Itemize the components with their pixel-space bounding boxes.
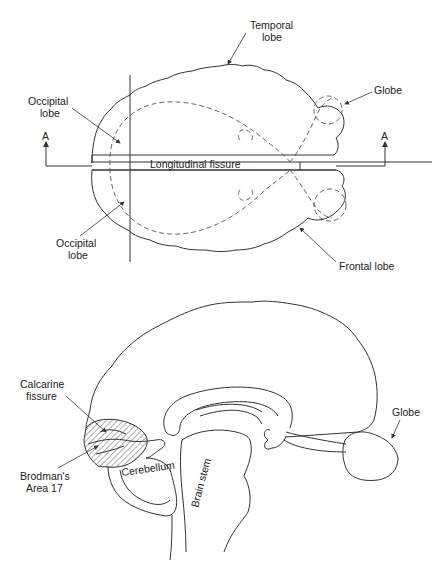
globe-sagittal-pointer: [392, 420, 400, 438]
label-section-a-left: A: [42, 130, 49, 142]
dashed-lgn-upper: [238, 130, 252, 142]
section-a-left-marker: [46, 142, 92, 166]
dashed-optic-lower: [290, 170, 332, 218]
globe-top-pointer: [345, 92, 372, 104]
brain-stem-top: [182, 430, 250, 440]
occipital-lower-pointer: [80, 202, 124, 236]
label-brodmans-line2: Area 17: [26, 482, 63, 494]
label-globe-sagittal: Globe: [392, 406, 420, 418]
brain-anatomy-diagram: Temporal lobe Globe Occipital lobe A A L…: [0, 0, 440, 576]
sagittal-view: Calcarine fissure Brodman's Area 17 Cere…: [20, 301, 420, 560]
brodmans-area-17: [84, 419, 147, 467]
label-section-a-right: A: [381, 130, 388, 142]
label-longitudinal-fissure: Longitudinal fissure: [150, 158, 241, 170]
dashed-optic-upper: [290, 98, 332, 162]
label-occipital-lower-line1: Occipital: [56, 237, 96, 249]
fourth-ventricle: [146, 440, 165, 458]
label-occipital-upper-line2: lobe: [40, 107, 60, 119]
occipital-upper-pointer: [72, 108, 120, 143]
temporal-lobe-pointer: [228, 33, 246, 64]
dashed-lgn-lower: [238, 188, 252, 200]
label-calcarine-line2: fissure: [26, 390, 57, 402]
dashed-lower-loop: [110, 168, 290, 234]
label-globe-top: Globe: [374, 84, 402, 96]
dashed-upper-loop: [110, 102, 290, 165]
fornix-lines: [196, 404, 262, 424]
label-frontal-lobe: Frontal lobe: [339, 260, 395, 272]
label-occipital-upper-line1: Occipital: [28, 95, 68, 107]
globe-sagittal: [343, 432, 398, 481]
label-calcarine-line1: Calcarine: [20, 378, 65, 390]
label-brain-stem: Brain stem: [188, 457, 213, 509]
label-brodmans-line1: Brodman's: [20, 470, 70, 482]
top-view: Temporal lobe Globe Occipital lobe A A L…: [28, 19, 432, 272]
frontal-lobe-pointer: [300, 228, 336, 262]
corpus-callosum: [164, 387, 292, 435]
optic-nerve-lower: [284, 440, 346, 452]
hypothalamus-bumps: [264, 430, 286, 449]
label-temporal-lobe-line2: lobe: [262, 31, 282, 43]
spinal-cord: [170, 515, 172, 560]
cerebrum-outline: [90, 301, 377, 437]
label-temporal-lobe-line1: Temporal: [250, 19, 293, 31]
label-occipital-lower-line2: lobe: [68, 249, 88, 261]
